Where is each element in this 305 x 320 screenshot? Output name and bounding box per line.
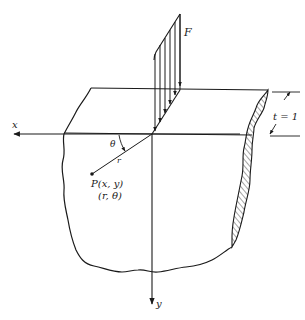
y-axis-label: y: [155, 298, 162, 309]
thickness-label: t = 1: [273, 111, 298, 122]
angle-theta: θ: [110, 135, 125, 151]
plate-left-boundary: [62, 134, 232, 272]
x-axis-label: x: [12, 119, 18, 130]
radius-label: r: [117, 156, 122, 165]
point-cartesian-label: P(x, y): [90, 178, 123, 189]
plate-thickness-edge: [232, 90, 268, 247]
angle-label: θ: [110, 139, 116, 149]
point-p: [90, 172, 94, 176]
distributed-force: F: [152, 14, 192, 134]
thickness-dimension: t = 1: [270, 92, 300, 136]
y-axis: y: [152, 134, 162, 309]
elasticity-diagram: t = 1 x y F r θ P(x, y) (r, θ): [0, 0, 305, 320]
force-label: F: [183, 26, 192, 39]
x-axis: x: [12, 119, 240, 134]
radius-vector: r: [90, 134, 152, 176]
point-polar-label: (r, θ): [98, 190, 122, 201]
